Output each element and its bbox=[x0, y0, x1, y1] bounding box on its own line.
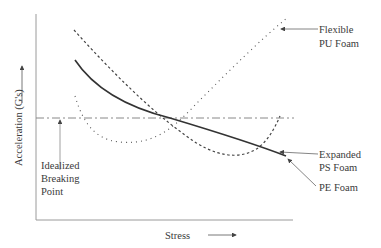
pe-arrow bbox=[288, 159, 316, 186]
x-axis-label: Stress bbox=[165, 229, 190, 242]
breaking-point-label-line3: Point bbox=[41, 185, 63, 198]
pu-foam-label-line2: PU Foam bbox=[319, 37, 359, 50]
breaking-point-label-line2: Breaking bbox=[41, 172, 80, 185]
pe-foam-curve bbox=[75, 60, 286, 156]
pe-foam-label: PE Foam bbox=[319, 181, 358, 194]
pu-foam-curve bbox=[75, 18, 287, 142]
ps-arrow bbox=[280, 152, 318, 154]
y-axis-label: Acceleration (G's) bbox=[13, 89, 24, 166]
ps-foam-label-line2: PS Foam bbox=[319, 161, 357, 174]
breaking-point-label-line1: Idealized bbox=[41, 159, 79, 172]
ps-foam-label-line1: Expanded bbox=[319, 148, 361, 161]
pu-foam-label-line1: Flexible bbox=[319, 23, 353, 36]
ps-foam-curve bbox=[74, 30, 280, 155]
